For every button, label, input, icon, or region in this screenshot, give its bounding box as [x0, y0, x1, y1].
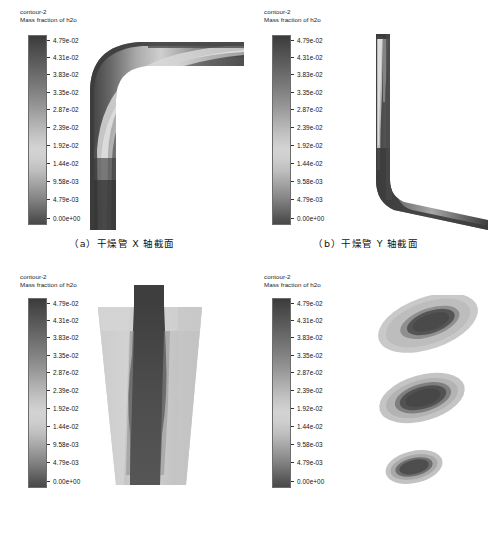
legend-title-line2: Mass fraction of h2o: [264, 281, 321, 289]
cross-section-bottom: [382, 445, 446, 489]
tick-dash-icon: [47, 92, 50, 93]
legend-title-line2: Mass fraction of h2o: [20, 281, 77, 289]
tick-dash-icon: [47, 109, 50, 110]
panel-a: contour-2 Mass fraction of h2o 4.79e-02 …: [0, 0, 244, 268]
tick-dash-icon: [47, 481, 50, 482]
tick-dash-icon: [291, 372, 294, 373]
legend-title-c: contour-2 Mass fraction of h2o: [20, 273, 77, 288]
tick-dash-icon: [47, 390, 50, 391]
colorbar-b: 4.79e-02 4.31e-02 3.83e-02 3.35e-02 2.87…: [272, 35, 352, 225]
tick-dash-icon: [291, 218, 294, 219]
cross-section-top: [370, 295, 485, 365]
tick-dash-icon: [47, 320, 50, 321]
legend-title-line1: contour-2: [20, 273, 47, 280]
tick-dash-icon: [47, 303, 50, 304]
tick-dash-icon: [291, 303, 294, 304]
tick-dash-icon: [47, 145, 50, 146]
tick-dash-icon: [291, 92, 294, 93]
tick-dash-icon: [291, 40, 294, 41]
tick-dash-icon: [47, 163, 50, 164]
tick-dash-icon: [291, 181, 294, 182]
tick-dash-icon: [47, 40, 50, 41]
tick-dash-icon: [47, 337, 50, 338]
tick-dash-icon: [291, 426, 294, 427]
tick-dash-icon: [291, 127, 294, 128]
tick-dash-icon: [291, 408, 294, 409]
tick-dash-icon: [47, 181, 50, 182]
legend-title-line2: Mass fraction of h2o: [264, 16, 321, 24]
tick-dash-icon: [47, 74, 50, 75]
figure-grid: contour-2 Mass fraction of h2o 4.79e-02 …: [0, 0, 488, 536]
tick-dash-icon: [47, 408, 50, 409]
tick-dash-icon: [47, 462, 50, 463]
duct-top-cap: [370, 32, 396, 39]
tick-dash-icon: [47, 426, 50, 427]
colorbar-gradient: [272, 35, 291, 225]
panel-c: contour-2 Mass fraction of h2o 4.79e-02 …: [0, 265, 244, 536]
tick-dash-icon: [47, 355, 50, 356]
contour-plot-d: [370, 295, 488, 490]
tick-dash-icon: [291, 199, 294, 200]
tick-dash-icon: [291, 320, 294, 321]
colorbar-gradient: [272, 298, 291, 488]
colorbar-gradient: [28, 35, 47, 225]
tick-dash-icon: [291, 462, 294, 463]
tick-dash-icon: [291, 481, 294, 482]
tick-dash-icon: [291, 145, 294, 146]
tick-dash-icon: [47, 218, 50, 219]
cyclone-wall-right: [176, 307, 202, 485]
tick-dash-icon: [291, 390, 294, 391]
panel-b: contour-2 Mass fraction of h2o 4.79e-02 …: [244, 0, 488, 268]
colorbar-ticks: 4.79e-02 4.31e-02 3.83e-02 3.35e-02 2.87…: [291, 298, 351, 488]
caption-a: （a）干燥管 X 轴截面: [0, 236, 244, 250]
contour-plot-a: [88, 30, 244, 230]
tick-dash-icon: [291, 444, 294, 445]
colorbar-gradient: [28, 298, 47, 488]
legend-title-line1: contour-2: [264, 273, 291, 280]
legend-title-a: contour-2 Mass fraction of h2o: [20, 8, 77, 23]
tick-dash-icon: [291, 355, 294, 356]
tick-dash-icon: [291, 57, 294, 58]
legend-title-line2: Mass fraction of h2o: [20, 16, 77, 24]
legend-title-d: contour-2 Mass fraction of h2o: [264, 273, 321, 288]
pipe-top-band: [148, 42, 244, 48]
panel-d: contour-2 Mass fraction of h2o 4.79e-02 …: [244, 265, 488, 536]
duct-right-edge: [386, 30, 392, 200]
contour-plot-c: [90, 285, 210, 490]
tick-dash-icon: [291, 109, 294, 110]
tick-dash-icon: [47, 372, 50, 373]
tick-dash-icon: [47, 444, 50, 445]
tick-dash-icon: [47, 127, 50, 128]
colorbar-ticks: 4.79e-02 4.31e-02 3.83e-02 3.35e-02 2.87…: [291, 35, 351, 225]
legend-title-b: contour-2 Mass fraction of h2o: [264, 8, 321, 23]
cross-section-middle: [373, 364, 470, 432]
tick-dash-icon: [47, 199, 50, 200]
caption-b: （b）干燥管 Y 轴截面: [244, 236, 488, 250]
legend-title-line1: contour-2: [20, 8, 47, 15]
tick-dash-icon: [291, 337, 294, 338]
contour-plot-b: [370, 30, 488, 230]
legend-title-line1: contour-2: [264, 8, 291, 15]
colorbar-d: 4.79e-02 4.31e-02 3.83e-02 3.35e-02 2.87…: [272, 298, 352, 488]
tick-dash-icon: [47, 57, 50, 58]
tick-dash-icon: [291, 163, 294, 164]
tick-dash-icon: [291, 74, 294, 75]
